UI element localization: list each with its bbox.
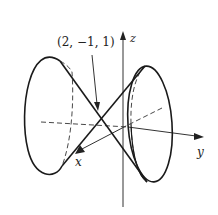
vertex-pointer bbox=[92, 55, 100, 111]
vertex-point-label: (2, −1, 1) bbox=[57, 35, 115, 49]
double-cone-diagram: (2, −1, 1) z y x bbox=[0, 0, 218, 215]
z-axis bbox=[120, 31, 126, 207]
x-axis bbox=[75, 108, 162, 154]
cone-generators bbox=[60, 61, 147, 182]
left-cone bbox=[25, 57, 73, 174]
y-axis-label: y bbox=[196, 145, 204, 159]
z-axis-label: z bbox=[129, 32, 136, 45]
y-axis-arrowhead-icon bbox=[194, 133, 204, 140]
z-axis-arrowhead-icon bbox=[120, 31, 126, 40]
x-axis-label: x bbox=[75, 155, 82, 169]
